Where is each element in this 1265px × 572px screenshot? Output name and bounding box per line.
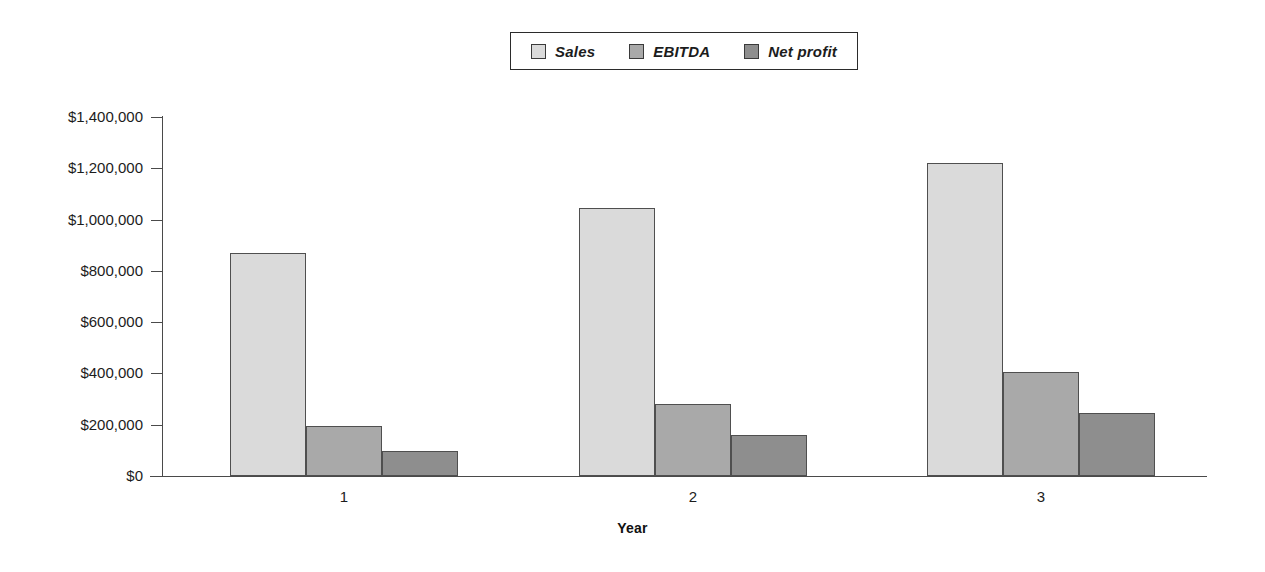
y-axis-tick-label: $1,400,000 [68,109,143,124]
legend-swatch-sales-icon [531,44,546,59]
y-axis-tick [151,220,162,221]
y-axis-tick-label: $600,000 [80,314,143,329]
y-axis-tick [151,117,162,118]
legend-label-sales: Sales [555,43,595,60]
bar-chart: Sales EBITDA Net profit $0$200,000$400,0… [0,0,1265,572]
bar-net-profit-year-3 [1079,413,1155,476]
bar-ebitda-year-2 [655,404,731,476]
y-axis-tick-label: $1,200,000 [68,160,143,175]
x-axis-tick-label: 2 [663,489,723,504]
legend-item-net-profit: Net profit [744,43,837,60]
y-axis-tick [151,168,162,169]
y-axis-tick [151,322,162,323]
bar-net-profit-year-2 [731,435,807,476]
y-axis-tick-label: $200,000 [80,417,143,432]
bar-net-profit-year-1 [382,451,458,476]
y-axis-tick-label: $1,000,000 [68,212,143,227]
legend-label-ebitda: EBITDA [653,43,710,60]
y-axis-tick [151,425,162,426]
y-axis-tick-label: $800,000 [80,263,143,278]
legend-swatch-ebitda-icon [629,44,644,59]
legend-label-net-profit: Net profit [768,43,837,60]
bar-ebitda-year-3 [1003,372,1079,476]
chart-legend: Sales EBITDA Net profit [510,32,858,70]
x-axis-tick-label: 3 [1011,489,1071,504]
bar-sales-year-2 [579,208,655,476]
y-axis-tick [151,476,162,477]
legend-item-sales: Sales [531,43,595,60]
x-axis-line [150,476,1207,477]
bar-ebitda-year-1 [306,426,382,476]
legend-item-ebitda: EBITDA [629,43,710,60]
bar-sales-year-1 [230,253,306,476]
y-axis-tick [151,271,162,272]
plot-bars [162,117,1207,476]
x-axis-tick-label: 1 [314,489,374,504]
y-axis-tick-label: $400,000 [80,365,143,380]
x-axis-title: Year [0,520,1265,536]
bar-sales-year-3 [927,163,1003,476]
y-axis-tick [151,373,162,374]
legend-swatch-net-profit-icon [744,44,759,59]
y-axis-tick-label: $0 [126,468,143,483]
